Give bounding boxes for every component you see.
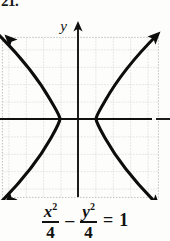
figure-panel: 21. y bbox=[0, 0, 170, 241]
denominator-4-x: 4 bbox=[46, 223, 55, 241]
numerator-x-squared: x2 bbox=[42, 203, 60, 221]
exponent-2-y: 2 bbox=[90, 201, 95, 212]
equation-term-y-squared-over-4: y2 4 bbox=[80, 203, 97, 241]
equation: x2 4 – y2 4 = 1 bbox=[0, 202, 170, 241]
denominator-4-y: 4 bbox=[84, 223, 93, 241]
y-axis-label: y bbox=[58, 18, 67, 34]
exponent-2-x: 2 bbox=[52, 201, 57, 212]
equation-term-x-squared-over-4: x2 4 bbox=[42, 203, 60, 241]
graph-canvas: y bbox=[0, 0, 170, 200]
hyperbola-graph: y bbox=[0, 0, 170, 200]
numerator-y-squared: y2 bbox=[80, 203, 97, 221]
equals-sign: = bbox=[103, 210, 113, 233]
minus-operator: – bbox=[65, 210, 74, 233]
right-hand-side-value: 1 bbox=[119, 210, 128, 233]
variable-y: y bbox=[82, 202, 90, 221]
